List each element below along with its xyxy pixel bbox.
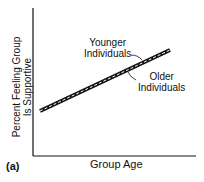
younger-leader-line [131,55,142,60]
y-label-line2: Is Supportive [22,27,33,147]
older-annotation: Older Individuals [138,71,185,93]
y-axis-label: Percent Feeling Group Is Supportive [11,27,33,147]
panel-label: (a) [6,160,19,172]
older-line2: Individuals [138,82,185,93]
younger-annotation: Younger Individuals [84,37,131,59]
y-label-line1: Percent Feeling Group [11,27,22,147]
x-axis-label: Group Age [90,159,143,170]
younger-line2: Individuals [84,48,131,59]
older-leader-line [128,72,136,80]
older-line1: Older [138,71,185,82]
younger-line1: Younger [84,37,131,48]
